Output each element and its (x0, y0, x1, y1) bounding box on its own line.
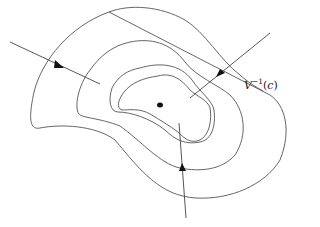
equilibrium-point (157, 103, 163, 108)
label-close-paren: ) (273, 79, 277, 92)
level-curve-inner (118, 75, 210, 141)
trajectory-bottom-arrowhead (179, 163, 186, 171)
level-curve-outer (31, 7, 286, 198)
label-superscript: −1 (252, 77, 263, 86)
lyapunov-level-set-diagram: V−1(c) (0, 0, 320, 227)
trajectory-left-arrowhead (54, 60, 64, 68)
